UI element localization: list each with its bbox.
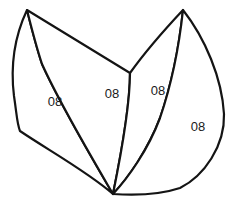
- region-label-inner-left: 08: [105, 86, 119, 101]
- leaf-diagram-canvas: 08 08 08 08: [0, 0, 235, 202]
- region-label-inner-right: 08: [151, 83, 165, 98]
- leaf-diagram-svg: 08 08 08 08: [0, 0, 235, 202]
- region-label-outer-left: 08: [48, 94, 62, 109]
- region-label-outer-right: 08: [191, 119, 205, 134]
